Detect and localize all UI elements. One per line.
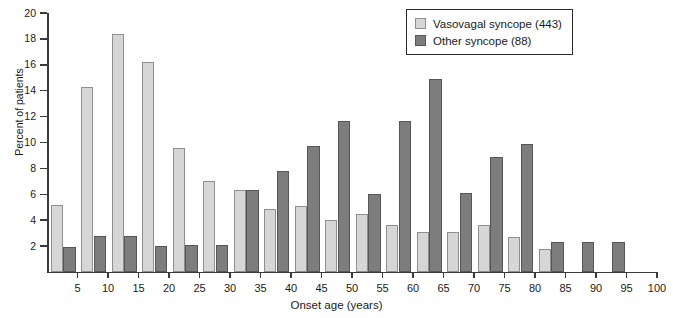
x-tick-45 <box>321 272 323 278</box>
x-tick-label-15: 15 <box>124 282 154 294</box>
bar-vasovagal-70 <box>447 232 459 272</box>
y-tick-8 <box>40 168 47 170</box>
bar-vasovagal-15 <box>112 34 124 272</box>
bar-other-80 <box>521 144 533 272</box>
x-tick-label-35: 35 <box>246 282 276 294</box>
x-tick-label-95: 95 <box>612 282 642 294</box>
x-tick-20 <box>168 272 170 278</box>
x-tick-label-80: 80 <box>520 282 550 294</box>
bar-vasovagal-30 <box>203 181 215 272</box>
bar-vasovagal-75 <box>478 225 490 272</box>
bar-other-30 <box>216 245 228 272</box>
syncope-onset-age-bar-chart: 2468101214161820 51015202530354045505560… <box>0 0 673 318</box>
bar-vasovagal-60 <box>386 225 398 272</box>
bar-other-60 <box>399 121 411 273</box>
bar-other-40 <box>277 171 289 272</box>
legend-item-other: Other syncope (88) <box>415 32 562 49</box>
x-tick-label-85: 85 <box>551 282 581 294</box>
bar-vasovagal-5 <box>51 205 63 272</box>
bar-other-5 <box>63 247 75 272</box>
chart-legend: Vasovagal syncope (443) Other syncope (8… <box>406 9 573 55</box>
bar-vasovagal-85 <box>539 249 551 272</box>
x-tick-label-25: 25 <box>185 282 215 294</box>
y-tick-20 <box>40 12 47 14</box>
y-tick-label-2: 2 <box>0 241 36 252</box>
bar-other-35 <box>246 190 258 272</box>
x-tick-label-40: 40 <box>276 282 306 294</box>
x-tick-5 <box>77 272 79 278</box>
x-tick-label-75: 75 <box>490 282 520 294</box>
x-tick-label-20: 20 <box>154 282 184 294</box>
x-tick-40 <box>290 272 292 278</box>
x-tick-35 <box>260 272 262 278</box>
x-tick-label-5: 5 <box>63 282 93 294</box>
x-tick-75 <box>504 272 506 278</box>
x-tick-100 <box>656 272 658 278</box>
y-tick-18 <box>40 38 47 40</box>
x-tick-label-10: 10 <box>93 282 123 294</box>
legend-swatch-icon-other <box>415 35 426 46</box>
bar-vasovagal-20 <box>142 62 154 272</box>
x-tick-10 <box>107 272 109 278</box>
bar-vasovagal-45 <box>295 206 307 272</box>
x-tick-label-50: 50 <box>337 282 367 294</box>
bar-other-10 <box>94 236 106 272</box>
y-axis-title: Percent of patients <box>13 37 25 187</box>
x-tick-label-70: 70 <box>459 282 489 294</box>
bar-other-65 <box>429 79 441 272</box>
y-tick-2 <box>40 245 47 247</box>
legend-label-other: Other syncope (88) <box>433 35 531 47</box>
y-tick-12 <box>40 116 47 118</box>
bar-other-15 <box>124 236 136 272</box>
bar-other-90 <box>582 242 594 272</box>
y-tick-6 <box>40 194 47 196</box>
legend-item-vasovagal: Vasovagal syncope (443) <box>415 15 562 32</box>
bar-other-20 <box>155 246 167 272</box>
bar-other-70 <box>460 193 472 272</box>
legend-swatch-icon-vasovagal <box>415 18 426 29</box>
x-tick-30 <box>229 272 231 278</box>
x-tick-50 <box>351 272 353 278</box>
x-tick-65 <box>443 272 445 278</box>
bar-vasovagal-65 <box>417 232 429 272</box>
x-tick-70 <box>473 272 475 278</box>
x-tick-label-55: 55 <box>368 282 398 294</box>
y-tick-label-6: 6 <box>0 189 36 200</box>
x-tick-label-65: 65 <box>429 282 459 294</box>
bar-other-75 <box>490 157 502 272</box>
y-tick-10 <box>40 142 47 144</box>
y-tick-16 <box>40 64 47 66</box>
x-tick-90 <box>595 272 597 278</box>
x-tick-label-90: 90 <box>581 282 611 294</box>
bar-vasovagal-40 <box>264 209 276 272</box>
x-tick-55 <box>382 272 384 278</box>
x-axis-title: Onset age (years) <box>0 299 673 311</box>
x-tick-80 <box>534 272 536 278</box>
bar-other-95 <box>612 242 624 272</box>
bar-vasovagal-55 <box>356 214 368 272</box>
x-tick-label-45: 45 <box>307 282 337 294</box>
y-tick-4 <box>40 219 47 221</box>
bar-other-25 <box>185 245 197 272</box>
x-tick-label-100: 100 <box>642 282 672 294</box>
x-tick-label-60: 60 <box>398 282 428 294</box>
x-tick-25 <box>199 272 201 278</box>
x-tick-85 <box>565 272 567 278</box>
x-tick-95 <box>626 272 628 278</box>
y-tick-14 <box>40 90 47 92</box>
x-tick-60 <box>412 272 414 278</box>
bar-vasovagal-10 <box>81 87 93 272</box>
bar-vasovagal-35 <box>234 190 246 272</box>
y-tick-label-4: 4 <box>0 215 36 226</box>
bar-vasovagal-25 <box>173 148 185 272</box>
bar-other-50 <box>338 121 350 273</box>
x-tick-15 <box>138 272 140 278</box>
bar-other-85 <box>551 242 563 272</box>
y-tick-label-20: 20 <box>0 8 36 19</box>
legend-label-vasovagal: Vasovagal syncope (443) <box>433 18 562 30</box>
bar-other-45 <box>307 146 319 272</box>
bar-other-55 <box>368 194 380 272</box>
bar-vasovagal-80 <box>508 237 520 272</box>
bar-vasovagal-50 <box>325 220 337 272</box>
x-tick-label-30: 30 <box>215 282 245 294</box>
